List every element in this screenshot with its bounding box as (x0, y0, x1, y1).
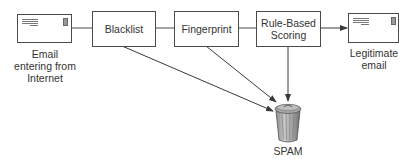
fingerprint-node: Fingerprint (174, 11, 239, 47)
fingerprint-label: Fingerprint (181, 23, 231, 35)
source-label-line-3: Internet (10, 72, 80, 84)
legitimate-label-line-1: Legitimate (343, 47, 405, 59)
rule-based-label-line-1: Rule-Based (261, 17, 316, 29)
legitimate-label-line-2: email (343, 59, 405, 71)
source-label: Email entering from Internet (10, 48, 80, 84)
edge-fingerprint-spam (206, 46, 276, 102)
legitimate-envelope-icon (348, 13, 399, 43)
spam-label: SPAM (268, 145, 308, 157)
source-envelope-icon (17, 14, 72, 43)
blacklist-node: Blacklist (92, 11, 156, 47)
stamp-icon (63, 18, 68, 26)
trash-can-icon (275, 104, 301, 142)
source-label-line-1: Email (10, 48, 80, 60)
rule-based-label-line-2: Scoring (271, 29, 307, 41)
edge-blacklist-spam (122, 46, 273, 111)
source-label-line-2: entering from (10, 60, 80, 72)
legitimate-label: Legitimate email (343, 47, 405, 71)
rule-based-scoring-node: Rule-Based Scoring (256, 11, 321, 47)
stamp-icon (391, 17, 396, 25)
blacklist-label: Blacklist (105, 23, 144, 35)
